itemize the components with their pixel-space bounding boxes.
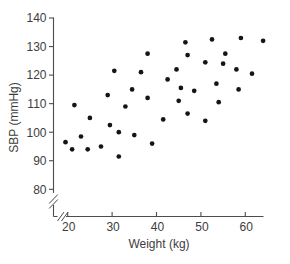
y-tick-label: 100 — [26, 126, 46, 140]
data-point — [105, 93, 110, 98]
x-axis-title: Weight (kg) — [128, 237, 189, 251]
data-point — [223, 51, 228, 56]
data-point — [116, 154, 121, 159]
axes — [49, 18, 264, 222]
x-tick-label: 50 — [195, 220, 209, 234]
data-point — [185, 53, 190, 58]
scatter-plot: 80901001101201301402030405060 Weight (kg… — [0, 0, 290, 264]
data-point — [214, 81, 219, 86]
data-point — [179, 86, 184, 91]
data-point — [145, 96, 150, 101]
data-point — [261, 38, 266, 43]
y-tick-label: 140 — [26, 11, 46, 25]
y-tick-label: 90 — [33, 154, 47, 168]
data-point — [210, 37, 215, 42]
data-point — [88, 116, 93, 121]
y-tick-label: 110 — [27, 97, 46, 111]
y-tick-label: 80 — [33, 183, 47, 197]
data-point — [70, 147, 75, 152]
scatter-figure: 80901001101201301402030405060 Weight (kg… — [0, 0, 290, 264]
data-point — [123, 104, 128, 109]
data-point — [174, 67, 179, 72]
data-point — [176, 98, 181, 103]
tick-labels: 80901001101201301402030405060 — [26, 11, 253, 233]
data-point — [63, 140, 68, 145]
x-tick-label: 20 — [62, 220, 76, 234]
y-tick-label: 130 — [26, 40, 46, 54]
data-point — [150, 141, 155, 146]
data-point — [108, 123, 113, 128]
data-point — [79, 134, 84, 139]
data-point — [250, 71, 255, 76]
data-point — [165, 77, 170, 82]
data-point — [183, 40, 188, 45]
data-point — [139, 70, 144, 75]
data-point — [99, 144, 104, 149]
data-point — [192, 88, 197, 93]
data-point — [112, 68, 117, 73]
data-point — [116, 130, 121, 135]
data-point — [85, 147, 90, 152]
data-point — [132, 133, 137, 138]
data-points — [63, 36, 265, 159]
data-point — [239, 36, 244, 41]
data-point — [145, 51, 150, 56]
data-point — [185, 111, 190, 116]
data-point — [72, 103, 77, 108]
x-tick-label: 60 — [240, 220, 254, 234]
x-tick-label: 30 — [106, 220, 120, 234]
data-point — [236, 87, 241, 92]
data-point — [221, 61, 226, 66]
y-tick-label: 120 — [26, 68, 46, 82]
data-point — [234, 67, 239, 72]
data-point — [161, 117, 166, 122]
y-axis-title: SBP (mmHg) — [7, 82, 21, 152]
data-point — [216, 100, 221, 105]
data-point — [203, 118, 208, 123]
data-point — [130, 87, 135, 92]
x-tick-label: 40 — [151, 220, 165, 234]
data-point — [203, 60, 208, 65]
